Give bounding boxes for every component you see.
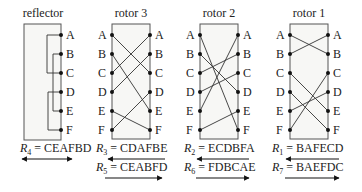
svg-text:B: B (333, 47, 341, 61)
rotor-3-equation-return: R5 = CEABFD (95, 160, 168, 176)
reflector-letters: A B C D E F (66, 28, 75, 137)
rotor-1-letters-left: A B C D E F (276, 28, 285, 137)
svg-text:E: E (276, 104, 283, 118)
svg-text:F: F (186, 123, 193, 137)
svg-text:B: B (66, 47, 74, 61)
svg-text:A: A (276, 28, 285, 42)
svg-text:E: E (66, 104, 73, 118)
svg-text:F: F (333, 123, 340, 137)
svg-text:D: D (333, 85, 342, 99)
svg-text:F: F (98, 123, 105, 137)
svg-text:C: C (243, 66, 251, 80)
reflector-equation: R4 = CEAFBD (19, 141, 92, 157)
svg-text:C: C (276, 66, 284, 80)
svg-text:D: D (155, 85, 164, 99)
svg-text:A: A (243, 28, 252, 42)
svg-text:D: D (186, 85, 195, 99)
svg-text:A: A (186, 28, 195, 42)
svg-text:D: D (66, 85, 75, 99)
svg-text:B: B (155, 47, 163, 61)
svg-text:C: C (333, 66, 341, 80)
rotor-3: rotor 3 A B C D E F A B (95, 6, 168, 178)
svg-text:C: C (98, 66, 106, 80)
svg-text:F: F (66, 123, 73, 137)
svg-text:B: B (98, 47, 106, 61)
svg-text:E: E (243, 104, 250, 118)
reflector: reflector A B C D E F R4 = CEAFBD (19, 6, 92, 159)
svg-text:F: F (155, 123, 162, 137)
reflector-title: reflector (23, 6, 64, 20)
svg-text:D: D (243, 85, 252, 99)
reflector-box (24, 24, 61, 140)
svg-text:A: A (155, 28, 164, 42)
rotor-1-equation-return: R7 = BAEFDC (271, 160, 343, 176)
svg-text:D: D (276, 85, 285, 99)
rotor-2-letters-right: A B C D E F (243, 28, 252, 137)
rotor-2-letters-left: A B C D E F (186, 28, 195, 137)
svg-text:B: B (276, 47, 284, 61)
rotor-1-title: rotor 1 (293, 6, 325, 20)
svg-text:E: E (333, 104, 340, 118)
svg-text:E: E (155, 104, 162, 118)
rotor-3-letters-left: A B C D E F (98, 28, 107, 137)
svg-text:B: B (243, 47, 251, 61)
rotor-2: rotor 2 A B C D E F A B (183, 6, 255, 178)
svg-text:B: B (186, 47, 194, 61)
svg-text:C: C (155, 66, 163, 80)
rotor-1-letters-right: A B C D E F (333, 28, 342, 137)
enigma-rotor-diagram: reflector A B C D E F R4 = CEAFBD rotor … (0, 0, 362, 192)
rotor-2-equation-return: R6 = FDBCAE (183, 160, 255, 176)
svg-text:C: C (66, 66, 74, 80)
rotor-3-title: rotor 3 (115, 6, 147, 20)
rotor-3-letters-right: A B C D E F (155, 28, 164, 137)
svg-text:F: F (243, 123, 250, 137)
svg-text:A: A (333, 28, 342, 42)
svg-text:E: E (186, 104, 193, 118)
svg-text:A: A (98, 28, 107, 42)
rotor-1: rotor 1 A B C D E F A B (271, 6, 344, 178)
svg-text:C: C (186, 66, 194, 80)
rotor-2-title: rotor 2 (203, 6, 235, 20)
rotor-3-equation-forward: R3 = CDAFBE (95, 141, 167, 157)
rotor-2-equation-forward: R2 = ECDBFA (183, 141, 255, 157)
rotor-1-equation-forward: R1 = BAFECD (271, 141, 344, 157)
svg-text:F: F (276, 123, 283, 137)
svg-text:A: A (66, 28, 75, 42)
svg-text:D: D (98, 85, 107, 99)
svg-text:E: E (98, 104, 105, 118)
